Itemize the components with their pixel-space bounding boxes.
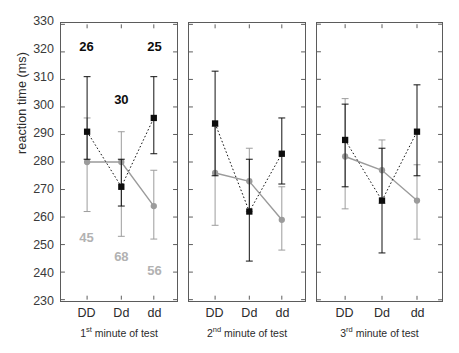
series-line-black — [215, 123, 282, 211]
x-axis-tick-labels: DDDdddDDDdddDDDddd — [0, 306, 459, 324]
data-point-black — [151, 115, 157, 121]
panel-caption: 1st minute of test — [80, 325, 158, 339]
x-tick-label-dd: dd — [147, 306, 161, 320]
data-point-black — [279, 151, 285, 157]
data-point-gray — [151, 203, 157, 209]
y-tick-label: 280 — [20, 155, 54, 168]
x-tick-label-dd: Dd — [113, 306, 129, 320]
x-tick-label-dd: DD — [336, 306, 354, 320]
x-tick-label-dd: DD — [206, 306, 224, 320]
error-bar — [342, 104, 349, 187]
plot-area-3 — [317, 23, 442, 301]
panel-caption: 3rd minute of test — [340, 325, 418, 339]
x-tick-label-dd: dd — [275, 306, 289, 320]
data-annotation-gray: 45 — [79, 230, 93, 245]
series-line-black — [345, 132, 417, 201]
y-tick-label: 260 — [20, 211, 54, 224]
y-tick-label: 300 — [20, 99, 54, 112]
panel-caption: 2nd minute of test — [207, 325, 287, 339]
series-line-black — [87, 118, 154, 187]
y-tick-label: 320 — [20, 43, 54, 56]
panel-3rd-minute — [316, 22, 443, 302]
data-point-gray — [84, 159, 90, 165]
x-tick-label-dd: dd — [411, 306, 425, 320]
axis-ticks — [317, 24, 442, 300]
data-annotation-black: 25 — [147, 39, 161, 54]
data-point-gray — [279, 217, 285, 223]
y-tick-label: 240 — [20, 267, 54, 280]
data-annotation-gray: 68 — [114, 249, 128, 264]
data-point-black — [212, 120, 218, 126]
axis-ticks — [189, 24, 305, 299]
y-tick-label: 250 — [20, 239, 54, 252]
y-tick-label: 330 — [20, 15, 54, 28]
data-point-black — [414, 129, 420, 135]
data-annotation-black: 26 — [79, 39, 93, 54]
data-point-black — [342, 137, 348, 143]
x-tick-label-dd: Dd — [374, 306, 390, 320]
panel-2nd-minute — [188, 22, 306, 302]
series-gray — [342, 99, 421, 240]
figure-canvas: reaction time (ms) 330320310300290280270… — [0, 0, 459, 353]
data-annotation-gray: 56 — [147, 263, 161, 278]
y-axis-tick-labels: 330320310300290280270260250240230 — [18, 0, 54, 353]
y-tick-label: 310 — [20, 71, 54, 84]
series-line-gray — [345, 156, 417, 200]
data-point-gray — [414, 197, 420, 203]
data-point-black — [379, 197, 385, 203]
data-point-black — [118, 184, 124, 190]
data-annotation-black: 30 — [114, 92, 128, 107]
series-gray — [84, 118, 158, 239]
data-point-black — [246, 208, 252, 214]
series-gray — [212, 126, 286, 250]
x-tick-label-dd: Dd — [241, 306, 257, 320]
x-tick-label-dd: DD — [78, 306, 96, 320]
series-black — [212, 71, 286, 261]
plot-area-2 — [189, 23, 305, 301]
y-tick-label: 290 — [20, 127, 54, 140]
y-tick-label: 270 — [20, 183, 54, 196]
data-point-black — [84, 129, 90, 135]
